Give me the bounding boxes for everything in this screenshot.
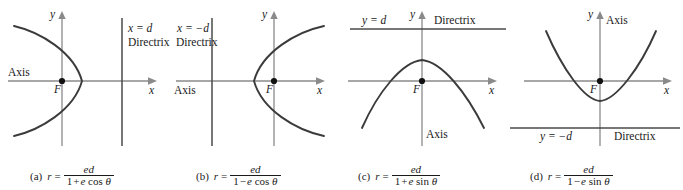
panel-b: y x F Axis x = −d Directrix (b) r = ed 1… (168, 0, 334, 190)
directrix-value-a: x = d (128, 22, 152, 35)
caption-fraction-b: ed 1−e cos θ (230, 164, 280, 188)
den-one-d: 1 (567, 175, 573, 187)
den-one-b: 1 (233, 175, 239, 187)
den-fn-d: sin (589, 175, 602, 187)
focus-label-a: F (54, 83, 61, 96)
panel-a: y x F Axis x = d Directrix (a) r = ed 1+… (0, 0, 168, 190)
directrix-value-b: x = −d (177, 22, 209, 35)
caption-denominator-c: 1+e sin θ (392, 176, 440, 188)
caption-numerator-a: ed (81, 164, 97, 176)
conic-sections-figure: y x F Axis x = d Directrix (a) r = ed 1+… (0, 0, 683, 190)
caption-equals-a: = (55, 170, 61, 182)
caption-denominator-a: 1+e cos θ (64, 176, 114, 188)
focus-point-d (597, 78, 603, 84)
caption-lhs-a: r (45, 170, 51, 182)
caption-tag-b: (b) (196, 170, 209, 182)
caption-equals-c: = (383, 170, 389, 182)
directrix-word-b: Directrix (176, 36, 218, 49)
den-theta-c: θ (432, 175, 437, 187)
focus-label-d: F (590, 83, 597, 96)
den-theta-a: θ (106, 175, 111, 187)
x-axis-b (176, 77, 325, 85)
directrix-value-d: y = −d (540, 130, 572, 143)
focus-label-b: F (266, 83, 273, 96)
y-axis-label-d: y (588, 8, 593, 21)
den-e-b: e (247, 175, 252, 187)
x-axis-label-c: x (489, 84, 494, 97)
caption-b: (b) r = ed 1−e cos θ (196, 164, 281, 188)
caption-fraction-c: ed 1+e sin θ (392, 164, 440, 188)
caption-equals-b: = (221, 170, 227, 182)
axis-label-b: Axis (174, 84, 196, 97)
conic-curve-c (362, 60, 484, 128)
panel-d-graph (506, 0, 683, 150)
den-fn-c: sin (416, 175, 429, 187)
caption-lhs-b: r (212, 170, 218, 182)
den-theta-b: θ (272, 175, 277, 187)
caption-denominator-d: 1−e sin θ (564, 176, 612, 188)
axis-label-d: Axis (606, 14, 628, 27)
panel-d: y x F Axis y = −d Directrix (d) r = ed 1… (506, 0, 683, 190)
panel-c-graph (334, 0, 506, 150)
caption-lhs-c: r (373, 170, 379, 182)
caption-c: (c) r = ed 1+e sin θ (358, 164, 440, 188)
den-fn-b: cos (255, 175, 270, 187)
caption-fraction-a: ed 1+e cos θ (64, 164, 114, 188)
den-e-c: e (408, 175, 413, 187)
den-op-d: − (573, 175, 581, 187)
caption-equals-d: = (555, 170, 561, 182)
x-axis-label-d: x (664, 84, 669, 97)
caption-numerator-c: ed (408, 164, 424, 176)
directrix-word-a: Directrix (128, 36, 170, 49)
caption-tag-c: (c) (358, 170, 370, 182)
den-op-b: − (239, 175, 247, 187)
caption-lhs-d: r (546, 170, 552, 182)
caption-tag-a: (a) (30, 170, 42, 182)
panel-c: y x F Axis y = d Directrix (c) r = ed 1+… (334, 0, 506, 190)
directrix-value-c: y = d (362, 14, 386, 27)
caption-denominator-b: 1−e cos θ (230, 176, 280, 188)
x-axis-label-b: x (317, 84, 322, 97)
conic-curve-d (546, 31, 656, 101)
caption-numerator-b: ed (247, 164, 263, 176)
caption-fraction-d: ed 1−e sin θ (564, 164, 612, 188)
caption-tag-d: (d) (530, 170, 543, 182)
directrix-word-d: Directrix (614, 130, 656, 143)
y-axis-label-c: y (410, 8, 415, 21)
axis-label-c: Axis (426, 128, 448, 141)
den-theta-d: θ (604, 175, 609, 187)
den-fn-a: cos (88, 175, 103, 187)
den-e-d: e (581, 175, 586, 187)
caption-d: (d) r = ed 1−e sin θ (530, 164, 613, 188)
y-axis-label-b: y (262, 8, 267, 21)
y-axis-label-a: y (50, 8, 55, 21)
caption-a: (a) r = ed 1+e cos θ (30, 164, 114, 188)
directrix-word-c: Directrix (434, 14, 476, 27)
x-axis-label-a: x (149, 84, 154, 97)
caption-numerator-d: ed (580, 164, 596, 176)
den-e-a: e (80, 175, 85, 187)
axis-label-a: Axis (8, 66, 30, 79)
focus-label-c: F (413, 83, 420, 96)
